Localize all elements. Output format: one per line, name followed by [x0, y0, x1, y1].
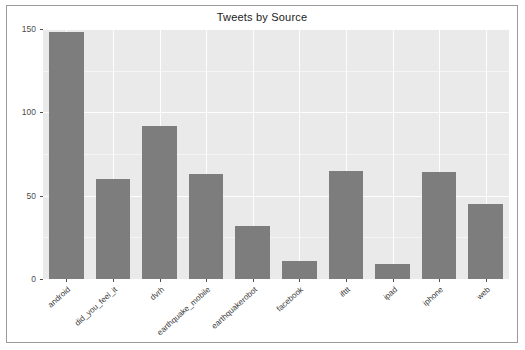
bar-ifttt — [329, 171, 363, 279]
x-tick-mark — [160, 279, 161, 282]
gridline-vertical — [393, 29, 394, 279]
bar-web — [468, 204, 502, 279]
bar-facebook — [282, 261, 316, 279]
y-tick-label: 50 — [10, 191, 36, 201]
y-axis: 050100150 — [7, 29, 43, 279]
bar-android — [49, 32, 83, 279]
x-tick-mark — [113, 279, 114, 282]
x-tick-mark — [206, 279, 207, 282]
bar-ipad — [375, 264, 409, 279]
x-tick-mark — [66, 279, 67, 282]
plot-frame: Tweets by Source Number of tweets 050100… — [6, 5, 518, 343]
x-tick-mark — [346, 279, 347, 282]
chart-title: Tweets by Source — [7, 11, 517, 23]
y-tick-label: 100 — [10, 107, 36, 117]
gridline-vertical — [299, 29, 300, 279]
x-tick-mark — [439, 279, 440, 282]
x-tick-mark — [393, 279, 394, 282]
bar-did_you_feel_it — [96, 179, 130, 279]
x-tick-mark — [253, 279, 254, 282]
bar-iphone — [422, 172, 456, 279]
bar-earthquakerobot — [235, 226, 269, 279]
x-axis: androiddid_you_feel_itdvrhearthquake_mob… — [43, 279, 509, 350]
x-tick-mark — [486, 279, 487, 282]
bar-dvrh — [142, 126, 176, 279]
x-tick-mark — [299, 279, 300, 282]
bar-earthquake_mobile — [189, 174, 223, 279]
plot-panel — [43, 29, 509, 279]
y-tick-label: 0 — [10, 274, 36, 284]
y-tick-label: 150 — [10, 24, 36, 34]
